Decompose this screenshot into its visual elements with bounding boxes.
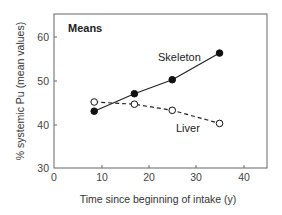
x-tick-label: 10: [96, 171, 108, 183]
skeleton-data-point: [91, 108, 98, 115]
y-tick-label: 30: [37, 162, 49, 174]
liver-label: Liver: [176, 122, 200, 134]
skeleton-label: Skeleton: [158, 51, 201, 63]
liver-data-point: [169, 107, 176, 114]
y-tick-label: 50: [37, 75, 49, 87]
y-tick-label: 60: [37, 31, 49, 43]
x-axis-label: Time since beginning of intake (y): [80, 193, 237, 205]
skeleton-data-point: [169, 76, 176, 83]
x-tick-label: 0: [51, 171, 57, 183]
liver-data-point: [216, 120, 223, 127]
liver-data-point: [91, 99, 98, 106]
y-axis-label: % systemic Pu (mean values): [14, 22, 26, 160]
liver-data-point: [131, 101, 138, 108]
chart: 60 50 40 30 0 10 20 30 40 Time since beg…: [0, 0, 282, 215]
y-tick-label: 40: [37, 119, 49, 131]
skeleton-markers: [91, 50, 223, 115]
liver-series-line: [94, 102, 219, 123]
skeleton-data-point: [131, 90, 138, 97]
x-tick-label: 30: [190, 171, 202, 183]
plot-frame: [54, 14, 267, 168]
chart-title: Means: [68, 22, 102, 34]
skeleton-data-point: [216, 50, 223, 57]
x-tick-label: 20: [143, 171, 155, 183]
x-tick-label: 40: [238, 171, 250, 183]
